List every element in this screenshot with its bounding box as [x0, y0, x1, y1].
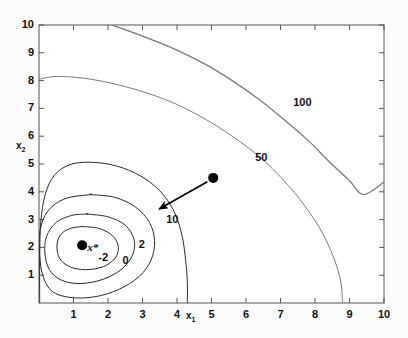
x-axis-title: x1: [186, 310, 195, 323]
contour-label-50: 50: [255, 151, 267, 163]
y-tick-label: 7: [0, 101, 34, 113]
x-tick-label: 8: [306, 308, 324, 320]
x-tick-label: 7: [272, 308, 290, 320]
point-start-point: [208, 173, 218, 183]
x-tick-label: 1: [65, 308, 83, 320]
y-tick-label: 10: [0, 18, 34, 30]
y-tick-label: 5: [0, 157, 34, 169]
contour-label-0: 0: [122, 254, 128, 266]
contour-label-2: 2: [139, 238, 145, 250]
x-tick-label: 6: [237, 308, 255, 320]
y-axis-title-sub: 2: [22, 146, 26, 153]
contour-plot-figure: 1234567891012345678910-2021050100x* x1 x…: [0, 0, 408, 338]
y-tick-label: 3: [0, 213, 34, 225]
y-axis-title: x2: [16, 140, 25, 153]
contour-label--2: -2: [98, 251, 108, 263]
x-tick-label: 10: [375, 308, 393, 320]
x-tick-label: 2: [99, 308, 117, 320]
plot-canvas: [0, 0, 408, 338]
y-tick-label: 9: [0, 46, 34, 58]
contour-label-10: 10: [166, 213, 178, 225]
x-tick-label: 9: [341, 308, 359, 320]
x-tick-label: 3: [134, 308, 152, 320]
y-tick-label: 1: [0, 268, 34, 280]
y-tick-label: 8: [0, 74, 34, 86]
x-tick-label: 4: [168, 308, 186, 320]
contour-label-100: 100: [293, 96, 311, 108]
y-tick-label: 4: [0, 185, 34, 197]
y-tick-label: 2: [0, 240, 34, 252]
point-minimizer: [77, 240, 87, 250]
x-tick-label: 5: [203, 308, 221, 320]
point-label-minimizer: x*: [87, 241, 98, 253]
x-axis-title-sub: 1: [192, 316, 196, 323]
